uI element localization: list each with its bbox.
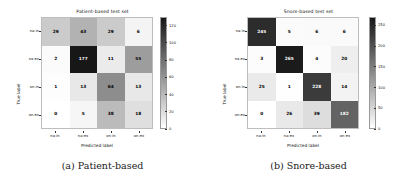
x-axis-label: Predicted label: [41, 143, 153, 148]
x-tick-label: na-in: [50, 134, 59, 138]
x-tick-label: on-ex: [134, 134, 144, 138]
heatmap-cell: 182: [331, 101, 359, 129]
heatmap-cell: 6: [303, 18, 331, 46]
colorbar-tick-label: 60: [169, 75, 174, 79]
colorbar-tick-label: 50: [378, 106, 383, 110]
heatmap-cell: 25: [248, 73, 276, 101]
colorbar-tick-label: 0: [378, 127, 380, 131]
colorbar-tick-label: 0: [169, 127, 171, 131]
heatmap-cell: 38: [97, 101, 125, 129]
colorbar-tick-label: 80: [169, 58, 174, 62]
heatmap-cell: 6: [331, 18, 359, 46]
heatmap-cell: 20: [331, 46, 359, 74]
colorbar: [160, 17, 167, 129]
x-tick-label: on-in: [106, 134, 115, 138]
colorbar-tick-label: 100: [378, 86, 385, 90]
heatmap-cell: 2: [42, 46, 70, 74]
heatmap-cell: 6: [125, 18, 153, 46]
panel-caption: (b) Snore-based: [206, 160, 411, 171]
colorbar-ticks: 020406080100120: [167, 17, 189, 129]
y-tick-label: na-ex: [29, 57, 39, 61]
y-tick-label: on-in: [30, 85, 39, 89]
heatmap-cell: 64: [97, 73, 125, 101]
heatmap-cell: 39: [303, 101, 331, 129]
heatmap-cell: 29: [97, 18, 125, 46]
heatmap-cell: 4: [303, 46, 331, 74]
colorbar-ticks: 050100150200250: [376, 17, 398, 129]
x-tick-label: on-in: [312, 134, 321, 138]
x-tick-labels: na-inna-exon-inon-ex: [41, 131, 153, 139]
colorbar-tick-label: 20: [169, 110, 174, 114]
confusion-matrix-figure: Patient-based test set True label na-inn…: [0, 0, 411, 188]
heatmap-cell: 177: [70, 46, 98, 74]
colorbar-tick-label: 120: [169, 24, 176, 28]
colorbar-tick-label: 200: [378, 44, 385, 48]
panel-snore-based: Snore-based test set True label na-inna-…: [206, 0, 411, 188]
x-tick-label: na-ex: [78, 134, 88, 138]
heatmap-cell: 1: [42, 73, 70, 101]
heatmap-cell: 43: [70, 18, 98, 46]
y-tick-label: na-in: [236, 29, 245, 33]
colorbar-tick-label: 100: [169, 41, 176, 45]
heatmap-cell: 5: [70, 101, 98, 129]
x-tick-label: na-in: [256, 134, 265, 138]
heatmap-cell: 265: [276, 46, 304, 74]
heatmap-cell: 11: [97, 46, 125, 74]
heatmap-cell: 55: [125, 46, 153, 74]
heatmap-cell: 228: [303, 73, 331, 101]
heatmap-cell: 0: [42, 101, 70, 129]
y-tick-label: on-ex: [29, 113, 39, 117]
x-tick-label: na-ex: [284, 134, 294, 138]
y-tick-labels: na-inna-exon-inon-ex: [14, 17, 39, 129]
x-tick-labels: na-inna-exon-inon-ex: [247, 131, 359, 139]
heatmap-cell: 5: [276, 18, 304, 46]
colorbar-tick-label: 250: [378, 23, 385, 27]
heatmap-cell: 1: [276, 73, 304, 101]
y-tick-label: on-in: [236, 85, 245, 89]
panel-caption: (a) Patient-based: [0, 160, 205, 171]
heatmap-cell: 0: [248, 101, 276, 129]
heatmap-cell: 13: [125, 73, 153, 101]
heatmap-cell: 14: [331, 73, 359, 101]
heatmap-cell: 245: [248, 18, 276, 46]
heatmap-cell: 13: [70, 73, 98, 101]
heatmap-matrix: 24556632654202512281402639182: [247, 17, 359, 129]
heatmap-matrix: 2943296217711551136413053818: [41, 17, 153, 129]
colorbar-tick-label: 150: [378, 65, 385, 69]
x-axis-label: Predicted label: [247, 143, 359, 148]
heatmap-cell: 3: [248, 46, 276, 74]
colorbar-tick-label: 40: [169, 93, 174, 97]
heatmap-cell: 18: [125, 101, 153, 129]
y-tick-label: na-in: [30, 29, 39, 33]
colorbar: [369, 17, 376, 129]
heatmap-cell: 26: [276, 101, 304, 129]
x-tick-label: on-ex: [340, 134, 350, 138]
plot-title: Patient-based test set: [0, 9, 205, 14]
y-tick-labels: na-inna-exon-inon-ex: [220, 17, 245, 129]
plot-title: Snore-based test set: [206, 9, 411, 14]
y-tick-label: on-ex: [235, 113, 245, 117]
panel-patient-based: Patient-based test set True label na-inn…: [0, 0, 205, 188]
y-tick-label: na-ex: [235, 57, 245, 61]
heatmap-cell: 29: [42, 18, 70, 46]
